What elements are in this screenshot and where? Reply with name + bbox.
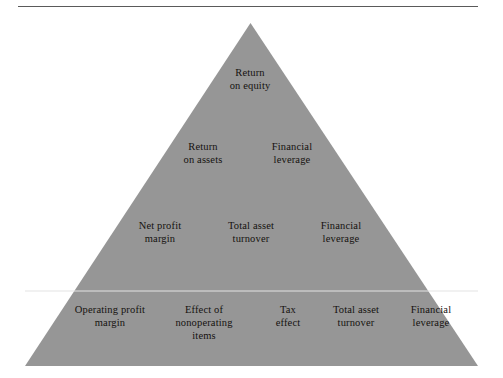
node-line-1: Financial xyxy=(379,303,483,316)
node-line-3: items xyxy=(152,329,256,342)
pyramid-label-layer: Return on equity Return on assets Financ… xyxy=(0,0,503,378)
dupont-pyramid-figure: Return on equity Return on assets Financ… xyxy=(0,0,503,378)
node-financial-leverage-3: Financial leverage xyxy=(287,219,395,245)
node-line-2: leverage xyxy=(379,316,483,329)
node-financial-leverage-4: Financial leverage xyxy=(379,303,483,329)
node-line-2: margin xyxy=(58,316,162,329)
node-line-1: Operating profit xyxy=(58,303,162,316)
node-financial-leverage-2: Financial leverage xyxy=(237,140,347,166)
node-line-2: leverage xyxy=(237,153,347,166)
node-return-on-equity: Return on equity xyxy=(190,66,310,92)
node-line-1: Return xyxy=(190,66,310,79)
node-effect-of-nonoperating-items: Effect of nonoperating items xyxy=(152,303,256,343)
node-line-2: on equity xyxy=(190,79,310,92)
node-line-2: leverage xyxy=(287,232,395,245)
node-line-2: nonoperating xyxy=(152,316,256,329)
node-line-1: Financial xyxy=(287,219,395,232)
node-line-1: Financial xyxy=(237,140,347,153)
node-line-1: Effect of xyxy=(152,303,256,316)
node-operating-profit-margin: Operating profit margin xyxy=(58,303,162,329)
